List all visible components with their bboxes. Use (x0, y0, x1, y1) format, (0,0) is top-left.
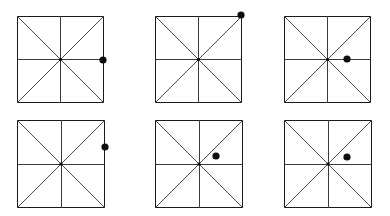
square-panel (7, 6, 114, 113)
center-hub-dot (197, 162, 200, 165)
marker-dot (101, 143, 108, 150)
figure-canvas (0, 0, 390, 216)
center-hub-dot (59, 58, 62, 61)
square-panel (274, 6, 381, 113)
marker-dot (237, 11, 244, 18)
center-hub-dot (326, 162, 329, 165)
marker-dot (343, 55, 350, 62)
marker-dot (212, 152, 219, 159)
marker-dot (343, 153, 350, 160)
center-hub-dot (197, 58, 200, 61)
marker-dot (99, 56, 106, 63)
square-panel (7, 110, 115, 216)
center-hub-dot (59, 162, 62, 165)
square-panel (145, 6, 252, 113)
square-panel (274, 110, 382, 216)
center-hub-dot (326, 58, 329, 61)
square-panel (145, 110, 253, 216)
